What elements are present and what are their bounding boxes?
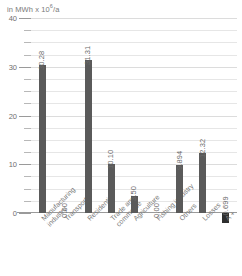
y-tick-label: 30 (9, 62, 17, 71)
gridline-minor (31, 79, 237, 80)
bar-value-label: 12.32 (198, 139, 207, 158)
gridline-major (31, 67, 237, 68)
bar-value-label: 30.28 (37, 51, 46, 70)
bar[interactable] (176, 165, 183, 213)
plot-area: 01020304030.28Manufacturingindustry0.00T… (31, 18, 237, 213)
y-tick-label: 10 (9, 160, 17, 169)
y-tick-label: 40 (9, 14, 17, 23)
bar[interactable] (108, 164, 115, 213)
y-tick-minor (24, 201, 31, 202)
y-tick-minor (24, 140, 31, 141)
y-tick-major (19, 18, 31, 19)
gridline-minor (31, 30, 237, 31)
y-tick-minor (24, 30, 31, 31)
y-tick-major (19, 164, 31, 165)
gridline-minor (31, 91, 237, 92)
y-tick-label: 0 (13, 209, 17, 218)
bar-value-label: 10.10 (106, 149, 115, 168)
bar-value-label: 3.50 (129, 186, 138, 201)
gridline-minor (31, 55, 237, 56)
y-tick-minor (24, 176, 31, 177)
y-tick-minor (24, 189, 31, 190)
y-tick-major (19, 116, 31, 117)
bar[interactable] (199, 153, 206, 213)
bar[interactable] (39, 65, 46, 213)
bar-chart: in MWh x 106/a 01020304030.28Manufacturi… (0, 0, 242, 276)
y-tick-minor (24, 55, 31, 56)
y-tick-major (19, 67, 31, 68)
y-tick-major (19, 213, 31, 214)
y-tick-minor (24, 79, 31, 80)
gridline-minor (31, 103, 237, 104)
gridline-major (31, 18, 237, 19)
gridline-minor (31, 128, 237, 129)
y-tick-minor (24, 152, 31, 153)
bar[interactable] (85, 60, 92, 213)
y-tick-minor (24, 128, 31, 129)
bar-value-label: 9.894 (175, 150, 184, 169)
y-axis-unit-label: in MWh x 106/a (7, 3, 59, 14)
gridline-minor (31, 42, 237, 43)
y-tick-minor (24, 91, 31, 92)
y-tick-label: 20 (9, 111, 17, 120)
y-tick-minor (24, 103, 31, 104)
y-tick-minor (24, 42, 31, 43)
bar-value-label: 31.31 (83, 46, 92, 65)
gridline-major (31, 116, 237, 117)
